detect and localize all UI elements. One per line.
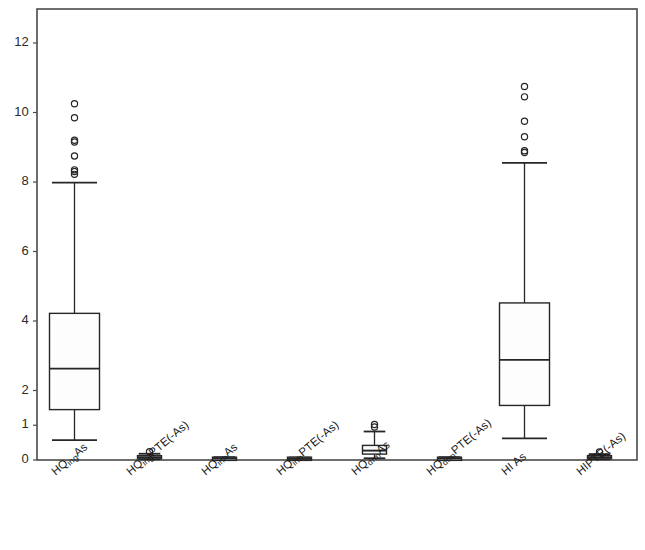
y-axis-tick-label: 10 [3,104,29,119]
y-axis-tick-label: 6 [3,243,29,258]
box-iqr [50,313,100,409]
y-axis-tick-label: 4 [3,312,29,327]
y-axis-tick-label: 12 [3,34,29,49]
y-axis-tick-label: 0 [3,451,29,466]
y-axis-tick-label: 1 [3,416,29,431]
y-axis-tick-label: 8 [3,173,29,188]
y-axis-tick-label: 2 [3,382,29,397]
chart-figure: Non-carcinogenic hazard for children 012… [0,0,645,550]
box-iqr [500,303,550,406]
boxplot-canvas [0,0,645,550]
